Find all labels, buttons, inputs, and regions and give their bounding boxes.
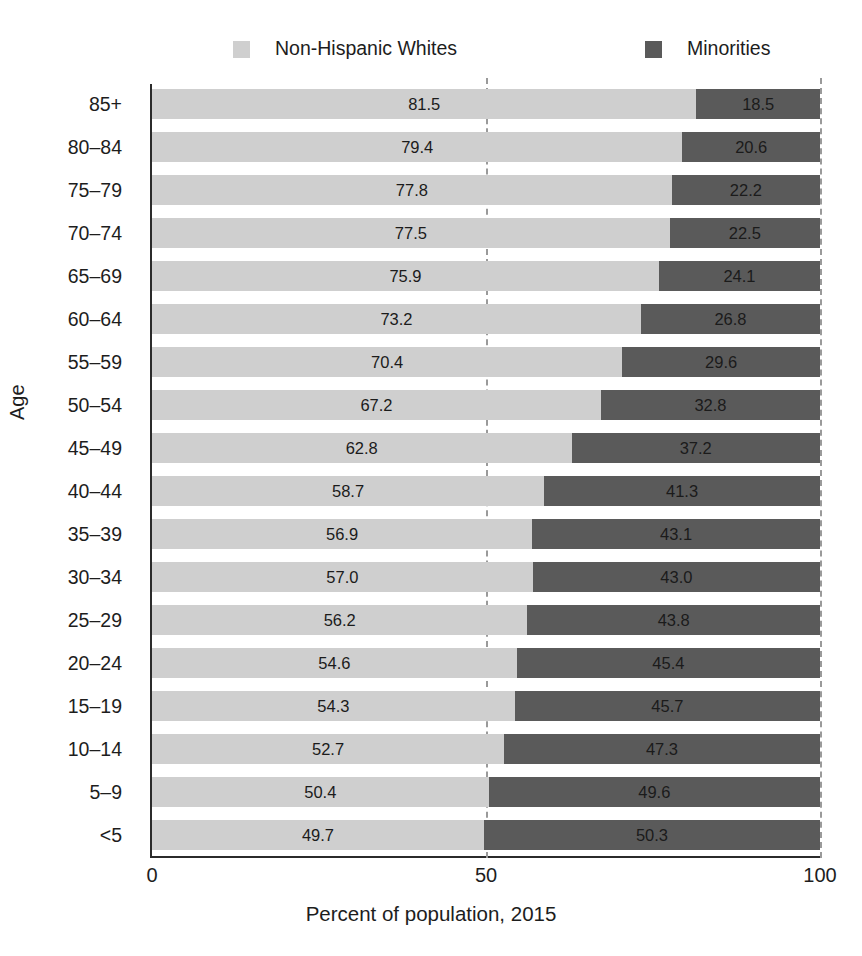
bar-segment-non-hispanic-whites: 62.8	[152, 433, 572, 463]
bar-value-label: 43.1	[660, 526, 692, 543]
bar-segment-minorities: 24.1	[659, 261, 820, 291]
bar-value-label: 57.0	[326, 569, 358, 586]
bar-value-label: 70.4	[371, 354, 403, 371]
bar-segment-non-hispanic-whites: 77.5	[152, 218, 670, 248]
bar-value-label: 73.2	[380, 311, 412, 328]
bar-row: 50.449.6	[152, 777, 820, 807]
bar-segment-non-hispanic-whites: 52.7	[152, 734, 504, 764]
bar-segment-minorities: 18.5	[696, 89, 820, 119]
bar-segment-minorities: 22.5	[670, 218, 820, 248]
bar-value-label: 67.2	[360, 397, 392, 414]
bar-row: 77.522.5	[152, 218, 820, 248]
bar-value-label: 77.5	[395, 225, 427, 242]
bar-row: 56.243.8	[152, 605, 820, 635]
bar-segment-non-hispanic-whites: 58.7	[152, 476, 544, 506]
y-axis-tick-label: 50–54	[68, 390, 122, 420]
legend-label-minorities: Minorities	[687, 39, 770, 59]
bar-segment-minorities: 49.6	[489, 777, 820, 807]
bar-segment-non-hispanic-whites: 67.2	[152, 390, 601, 420]
bar-value-label: 37.2	[680, 440, 712, 457]
bar-value-label: 26.8	[714, 311, 746, 328]
bar-segment-non-hispanic-whites: 50.4	[152, 777, 489, 807]
bar-value-label: 79.4	[401, 139, 433, 156]
bar-segment-non-hispanic-whites: 57.0	[152, 562, 533, 592]
bar-row: 56.943.1	[152, 519, 820, 549]
bar-rows: 81.518.579.420.677.822.277.522.575.924.1…	[152, 84, 820, 856]
bar-value-label: 41.3	[666, 483, 698, 500]
bar-segment-minorities: 45.4	[517, 648, 820, 678]
bar-row: 58.741.3	[152, 476, 820, 506]
bar-row: 77.822.2	[152, 175, 820, 205]
y-axis-tick-label: 5–9	[89, 777, 122, 807]
bar-value-label: 56.2	[324, 612, 356, 629]
bar-segment-non-hispanic-whites: 56.9	[152, 519, 532, 549]
y-axis-tick-labels: 85+80–8475–7970–7465–6960–6455–5950–5445…	[0, 84, 140, 856]
bar-segment-minorities: 26.8	[641, 304, 820, 334]
bar-segment-minorities: 43.8	[527, 605, 820, 635]
y-axis-tick-label: 15–19	[68, 691, 122, 721]
bar-value-label: 49.6	[638, 784, 670, 801]
bar-value-label: 77.8	[396, 182, 428, 199]
y-axis-tick-label: 40–44	[68, 476, 122, 506]
bar-segment-non-hispanic-whites: 75.9	[152, 261, 659, 291]
y-axis-tick-label: 65–69	[68, 261, 122, 291]
bar-value-label: 81.5	[408, 96, 440, 113]
bar-value-label: 56.9	[326, 526, 358, 543]
bar-row: 81.518.5	[152, 89, 820, 119]
bar-value-label: 22.2	[730, 182, 762, 199]
bar-value-label: 47.3	[646, 741, 678, 758]
x-axis-title: Percent of population, 2015	[0, 902, 862, 926]
bar-row: 75.924.1	[152, 261, 820, 291]
y-axis-tick-label: 85+	[89, 89, 122, 119]
bar-segment-minorities: 22.2	[672, 175, 820, 205]
y-axis-tick-label: 25–29	[68, 605, 122, 635]
bar-value-label: 62.8	[346, 440, 378, 457]
bar-segment-non-hispanic-whites: 79.4	[152, 132, 682, 162]
bar-segment-non-hispanic-whites: 70.4	[152, 347, 622, 377]
y-axis-tick-label: 70–74	[68, 218, 122, 248]
bar-segment-non-hispanic-whites: 54.3	[152, 691, 515, 721]
bar-value-label: 58.7	[332, 483, 364, 500]
bar-value-label: 32.8	[694, 397, 726, 414]
y-axis-tick-label: 10–14	[68, 734, 122, 764]
y-axis-tick-label: 30–34	[68, 562, 122, 592]
bar-row: 62.837.2	[152, 433, 820, 463]
bar-value-label: 43.0	[660, 569, 692, 586]
bar-segment-non-hispanic-whites: 81.5	[152, 89, 696, 119]
bar-segment-non-hispanic-whites: 77.8	[152, 175, 672, 205]
bar-value-label: 43.8	[658, 612, 690, 629]
bar-value-label: 22.5	[729, 225, 761, 242]
y-axis-tick-label: <5	[100, 820, 122, 850]
bar-segment-minorities: 47.3	[504, 734, 820, 764]
bar-row: 79.420.6	[152, 132, 820, 162]
bar-value-label: 54.3	[317, 698, 349, 715]
bar-segment-minorities: 43.1	[532, 519, 820, 549]
y-axis-tick-label: 75–79	[68, 175, 122, 205]
y-axis-tick-label: 80–84	[68, 132, 122, 162]
bar-value-label: 18.5	[742, 96, 774, 113]
bar-value-label: 54.6	[318, 655, 350, 672]
bar-segment-minorities: 20.6	[682, 132, 820, 162]
bar-segment-minorities: 45.7	[515, 691, 820, 721]
bar-row: 49.750.3	[152, 820, 820, 850]
bar-value-label: 45.7	[651, 698, 683, 715]
legend-swatch-non-hispanic-whites	[233, 41, 250, 58]
bar-row: 57.043.0	[152, 562, 820, 592]
bar-row: 70.429.6	[152, 347, 820, 377]
legend-swatch-minorities	[645, 41, 662, 58]
x-axis-tick-label: 50	[475, 864, 497, 887]
y-axis-tick-label: 20–24	[68, 648, 122, 678]
bar-value-label: 50.3	[636, 827, 668, 844]
bar-segment-minorities: 37.2	[572, 433, 820, 463]
bar-value-label: 52.7	[312, 741, 344, 758]
legend-label-non-hispanic-whites: Non-Hispanic Whites	[275, 39, 457, 59]
bar-value-label: 49.7	[302, 827, 334, 844]
y-axis-tick-label: 55–59	[68, 347, 122, 377]
bar-row: 67.232.8	[152, 390, 820, 420]
x-axis-tick-label: 100	[803, 864, 836, 887]
bar-row: 54.645.4	[152, 648, 820, 678]
chart-plot-area: 81.518.579.420.677.822.277.522.575.924.1…	[152, 84, 820, 856]
bar-value-label: 29.6	[705, 354, 737, 371]
y-axis-tick-label: 60–64	[68, 304, 122, 334]
bar-row: 52.747.3	[152, 734, 820, 764]
